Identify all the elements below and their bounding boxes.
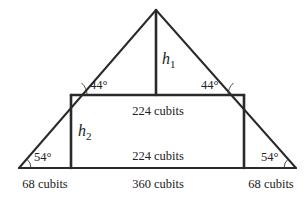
rect-bottom-length-label: 224 cubits	[132, 149, 184, 163]
roof-diagram: 44° 44° 54° 54° h1 h2 224 cubits 224 cub…	[0, 0, 308, 198]
angle-label-bottom-left: 54°	[34, 150, 52, 164]
angle-arc-bottom-right	[284, 159, 288, 168]
base-left-length-label: 68 cubits	[22, 177, 68, 191]
angle-label-top-right: 44°	[201, 78, 219, 92]
base-right-length-label: 68 cubits	[248, 177, 294, 191]
rect-top-length-label: 224 cubits	[132, 104, 184, 118]
angle-label-top-left: 44°	[90, 78, 108, 92]
base-middle-length-label: 360 cubits	[132, 177, 184, 191]
angle-label-bottom-right: 54°	[261, 150, 279, 164]
h2-label: h2	[78, 122, 92, 142]
right-slope-line	[156, 10, 296, 168]
angle-arc-bottom-left	[27, 159, 31, 168]
h1-label: h1	[162, 50, 176, 70]
left-slope-line	[19, 10, 156, 168]
